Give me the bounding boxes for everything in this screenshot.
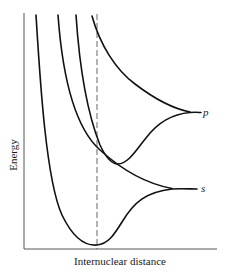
label-p: p: [202, 106, 209, 118]
curve-p-antibonding: [92, 16, 190, 112]
curve-s-antibonding: [58, 15, 172, 189]
y-axis-label: Energy: [7, 139, 19, 171]
x-axis-label: Internuclear distance: [74, 255, 166, 267]
curve-p-bonding: [76, 15, 201, 164]
energy-diagram: p s Energy Internuclear distance: [0, 0, 227, 277]
label-s: s: [201, 182, 205, 194]
curve-s-bonding: [36, 15, 197, 245]
